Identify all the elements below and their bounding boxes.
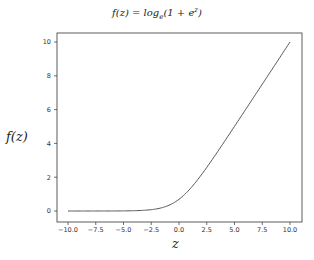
x-tick-label: −2.5 — [143, 226, 159, 234]
x-tick-label: 5.0 — [229, 226, 239, 234]
x-tick-label: 7.5 — [257, 226, 267, 234]
y-axis-ticks: 0246810 — [43, 38, 57, 215]
x-axis-ticks: −10.0−7.5−5.0−2.50.02.55.07.510.0 — [58, 222, 297, 234]
x-tick-label: −7.5 — [88, 226, 104, 234]
plot-area: −10.0−7.5−5.0−2.50.02.55.07.510.0 024681… — [0, 0, 314, 260]
y-tick-label: 8 — [47, 72, 51, 80]
y-tick-label: 0 — [47, 207, 51, 215]
y-tick-label: 2 — [47, 174, 51, 182]
y-tick-label: 6 — [47, 106, 51, 114]
y-tick-label: 10 — [43, 38, 51, 46]
softplus-curve — [68, 42, 290, 211]
x-tick-label: 10.0 — [283, 226, 297, 234]
x-tick-label: −10.0 — [58, 226, 78, 234]
axes-frame — [57, 33, 302, 222]
x-tick-label: −5.0 — [116, 226, 132, 234]
x-tick-label: 2.5 — [202, 226, 212, 234]
y-tick-label: 4 — [47, 140, 51, 148]
x-tick-label: 0.0 — [174, 226, 184, 234]
